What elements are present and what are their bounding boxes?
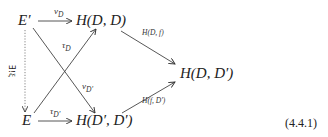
label-h-d-f: H(D, f) [142, 29, 164, 37]
equation-number: (4.4.1) [285, 117, 317, 129]
node-e: E [22, 113, 31, 128]
node-h-dp-dp: H(D′, D′) [76, 113, 133, 128]
label-h-f-dp: H(f, D′) [142, 97, 165, 105]
node-h-d-dp: H(D, D′) [180, 66, 233, 81]
node-h-d-d: H(D, D) [76, 13, 126, 28]
label-tau-dp: τD′ [50, 107, 60, 118]
label-nu-d: νD [54, 7, 63, 18]
node-e-prime: E′ [18, 13, 30, 28]
label-nu-dp: νD′ [82, 82, 93, 93]
label-tau-d: τD [62, 41, 71, 52]
label-exists-xi: ∃!ξ [7, 65, 17, 77]
